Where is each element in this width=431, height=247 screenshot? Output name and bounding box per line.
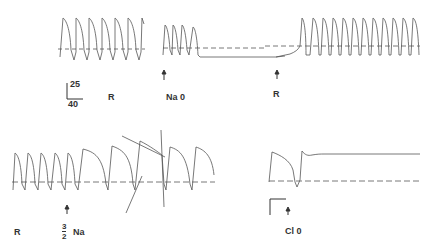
scale-vertical-label: 25 xyxy=(70,79,80,89)
condition-label-cl0: Cl 0 xyxy=(285,226,302,236)
fraction-numerator: 3 xyxy=(62,222,66,232)
condition-label-r2: R xyxy=(273,89,280,99)
scale-horizontal-label: 40 xyxy=(68,99,78,109)
condition-label-na0: Na 0 xyxy=(166,92,185,102)
condition-label-na: Na xyxy=(73,227,85,237)
traces xyxy=(0,0,431,247)
condition-label-r3: R xyxy=(14,227,21,237)
condition-label-r1: R xyxy=(108,92,115,102)
fraction-3-2: 3 2 xyxy=(62,222,66,241)
fraction-denominator: 2 xyxy=(62,232,66,241)
scale-bar-2 xyxy=(270,199,286,215)
figure: 25 40 R Na 0 R R 3 2 Na Cl 0 xyxy=(0,0,431,247)
